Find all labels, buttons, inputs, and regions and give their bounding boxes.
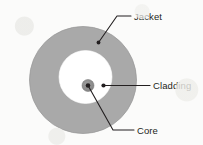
core-label: Core	[137, 125, 158, 136]
cladding-circle	[59, 51, 112, 104]
jacket-anchor-dot	[97, 41, 101, 45]
fiber-optic-cross-section-diagram: Jacket Cladding Core	[0, 0, 203, 145]
cladding-label: Cladding	[153, 80, 191, 91]
jacket-label: Jacket	[134, 11, 162, 22]
diagram-canvas: Jacket Cladding Core	[0, 0, 203, 145]
core-anchor-dot	[86, 83, 91, 88]
cladding-anchor-dot	[101, 83, 105, 87]
